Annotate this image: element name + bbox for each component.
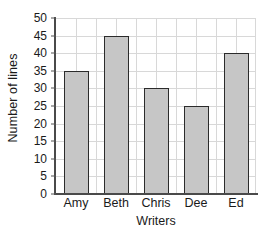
y-tick-label: 40 [34,47,47,59]
y-tick-mark [51,18,56,19]
bars-layer [56,18,256,194]
y-tick-label: 5 [40,170,47,182]
bar-beth [104,36,129,194]
y-tick-mark [51,194,56,195]
y-axis-tick-labels: 05101520253035404550 [26,0,51,196]
bar-chart: Number of lines 05101520253035404550 Amy… [0,0,278,243]
y-axis-title-text: Number of lines [6,53,20,142]
bar-chris [144,88,169,194]
y-tick-label: 10 [34,153,47,165]
y-tick-mark [51,176,56,177]
y-tick-label: 30 [34,82,47,94]
y-tick-mark [51,123,56,124]
y-tick-mark [51,53,56,54]
x-axis-title: Writers [56,214,256,228]
bar-ed [224,53,249,194]
y-tick-label: 50 [34,12,47,24]
plot-area [56,18,256,194]
y-tick-label: 0 [40,188,47,200]
y-tick-label: 20 [34,118,47,130]
y-axis-title: Number of lines [0,0,26,196]
y-tick-label: 45 [34,30,47,42]
y-tick-label: 35 [34,65,47,77]
x-tick-label-amy: Amy [64,196,89,211]
x-axis-line [54,193,258,195]
y-tick-label: 25 [34,100,47,112]
y-tick-mark [51,70,56,71]
y-tick-mark [51,141,56,142]
x-tick-label-dee: Dee [185,196,208,211]
bar-dee [184,106,209,194]
y-tick-mark [51,158,56,159]
x-tick-label-chris: Chris [141,196,170,211]
y-tick-mark [51,35,56,36]
bar-amy [64,71,89,194]
y-tick-mark [51,106,56,107]
x-tick-label-ed: Ed [228,196,243,211]
x-axis-tick-labels: AmyBethChrisDeeEd [56,196,256,214]
x-tick-label-beth: Beth [103,196,129,211]
y-tick-label: 15 [34,135,47,147]
y-tick-mark [51,88,56,89]
